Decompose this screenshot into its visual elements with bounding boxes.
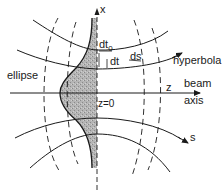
- hyperbola-label: hyperbola: [173, 54, 222, 66]
- beam-diagram: x dt0 dt ds hyperbola ellipse z beam axi…: [0, 0, 223, 193]
- s-arrow: [178, 137, 188, 143]
- s-label: s: [190, 131, 196, 143]
- beam-label: beam: [184, 77, 212, 89]
- dt-label: dt: [110, 55, 119, 67]
- x-axis-arrowhead: [95, 8, 100, 15]
- axis-label: axis: [184, 94, 204, 106]
- ellipse-label: ellipse: [7, 69, 38, 81]
- ds-label: ds: [130, 50, 142, 62]
- x-axis-label: x: [100, 3, 106, 15]
- waist-label: z=0: [98, 98, 115, 109]
- z-axis-label: z: [166, 81, 172, 93]
